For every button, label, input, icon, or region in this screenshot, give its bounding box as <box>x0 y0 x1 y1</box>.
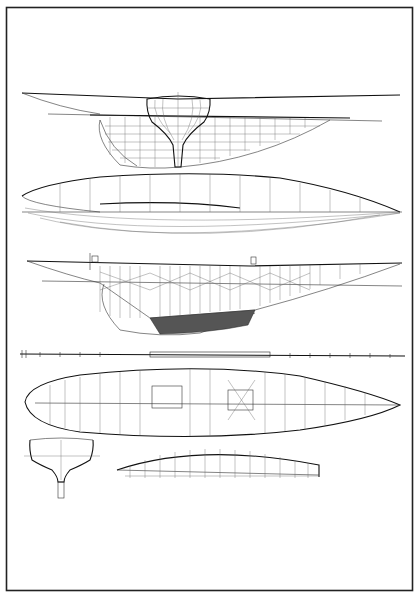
frame-scale-strip <box>20 350 405 358</box>
deck-plan-drawing <box>25 369 400 437</box>
construction-profile-drawing <box>27 253 402 335</box>
plan-sheet <box>0 0 419 604</box>
lines-profile-drawing <box>22 92 400 168</box>
deck-detail-drawing <box>117 449 319 478</box>
half-breadth-drawing <box>22 173 402 233</box>
midship-section-drawing <box>24 438 100 498</box>
